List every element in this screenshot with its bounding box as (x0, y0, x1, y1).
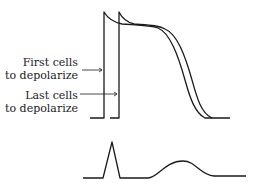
action-potential-diagram (0, 0, 259, 190)
last-cells-action-potential (110, 12, 230, 118)
ecg-trace (83, 142, 246, 178)
first-cells-action-potential (90, 12, 212, 118)
